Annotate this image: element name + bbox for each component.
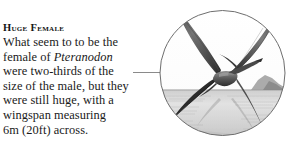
caption-line-text: were two-thirds of the <box>3 64 114 78</box>
caption-heading: Huge Female <box>3 21 135 34</box>
vignette-scene <box>159 2 286 144</box>
caption-text-block: Huge Female What seem to to be the femal… <box>3 21 135 137</box>
caption-line: female of Pteranodon <box>3 50 135 65</box>
caption-line: wingspan measuring <box>3 108 135 123</box>
figure-caption-panel: Huge Female What seem to to be the femal… <box>0 0 287 150</box>
caption-leader-line <box>133 72 161 73</box>
pteranodon-illustration <box>159 2 286 144</box>
caption-line-text: wingspan measuring <box>3 108 106 122</box>
species-name: Pteranodon <box>54 50 113 64</box>
caption-line-text: female of <box>3 50 54 64</box>
caption-line-text: 6m (20ft) across. <box>3 123 88 137</box>
caption-line-text: What seem to to be the <box>3 35 118 49</box>
caption-line: were still huge, with a <box>3 93 135 108</box>
caption-line: size of the male, but they <box>3 79 135 94</box>
caption-line: What seem to to be the <box>3 35 135 50</box>
caption-line-text: were still huge, with a <box>3 93 114 107</box>
caption-line: 6m (20ft) across. <box>3 123 135 138</box>
caption-line: were two-thirds of the <box>3 64 135 79</box>
caption-line-text: size of the male, but they <box>3 79 129 93</box>
